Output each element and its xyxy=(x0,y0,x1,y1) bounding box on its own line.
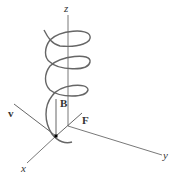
diagram-canvas: z x y v B F xyxy=(0,0,171,179)
y-axis xyxy=(68,126,162,155)
f-vector xyxy=(56,113,82,136)
b-label: B xyxy=(60,98,67,109)
helix-diagram xyxy=(0,0,171,179)
v-label: v xyxy=(8,108,14,119)
x-axis xyxy=(27,136,56,163)
x-axis-label: x xyxy=(21,163,26,174)
z-axis-label: z xyxy=(64,3,68,14)
y-axis-label: y xyxy=(163,150,168,161)
f-label: F xyxy=(82,115,89,126)
origin-point xyxy=(55,135,58,138)
